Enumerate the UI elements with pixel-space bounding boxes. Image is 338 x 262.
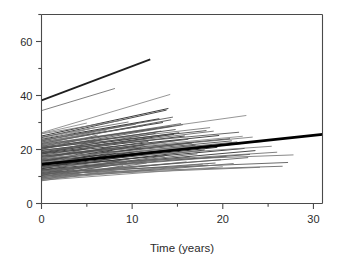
y-axis-tick-label: 20 bbox=[20, 144, 32, 156]
spaghetti-plot: 02040600102030 Time (years) bbox=[0, 0, 338, 262]
x-axis-tick-label: 0 bbox=[38, 213, 44, 225]
x-axis-tick-label: 10 bbox=[126, 213, 138, 225]
y-axis-tick-label: 60 bbox=[20, 36, 32, 48]
x-axis-title: Time (years) bbox=[150, 242, 214, 254]
x-axis-tick-label: 20 bbox=[217, 213, 229, 225]
x-axis-tick-label: 30 bbox=[307, 213, 319, 225]
chart-figure: 02040600102030 Time (years) bbox=[0, 0, 338, 262]
y-axis-tick-label: 40 bbox=[20, 90, 32, 102]
y-axis-tick-label: 0 bbox=[26, 198, 32, 210]
